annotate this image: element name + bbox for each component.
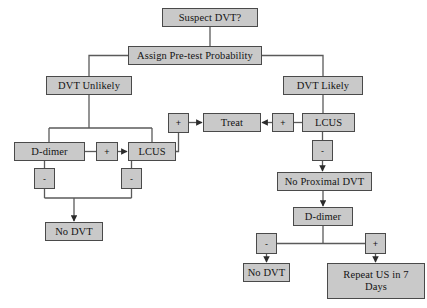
sign-plus-lcus-left-to-treat[interactable]: +	[168, 113, 189, 133]
node-dvt-unlikely[interactable]: DVT Unlikely	[46, 76, 132, 95]
node-lcus-right[interactable]: LCUS	[302, 113, 355, 132]
sign-plus-lcus-right-to-treat[interactable]: +	[272, 113, 294, 132]
sign-minus-d-dimer-right[interactable]: -	[256, 233, 277, 254]
edge-assign-bus-right	[262, 56, 323, 77]
node-d-dimer-right[interactable]: D-dimer	[293, 207, 353, 226]
sign-plus-ddimer-to-lcus-left[interactable]: +	[96, 142, 118, 161]
node-no-dvt-left[interactable]: No DVT	[45, 222, 103, 241]
sign-minus-d-dimer-left[interactable]: -	[34, 168, 55, 189]
sign-plus-d-dimer-right[interactable]: +	[365, 233, 386, 254]
dvt-flowchart: Suspect DVT? Assign Pre-test Probability…	[0, 0, 427, 308]
edge-lcus-left-to-plus	[176, 133, 179, 152]
node-treat[interactable]: Treat	[203, 113, 261, 132]
node-no-proximal-dvt[interactable]: No Proximal DVT	[277, 172, 372, 191]
node-repeat-us-in-7-days[interactable]: Repeat US in 7 Days	[327, 263, 425, 299]
sign-minus-lcus-right[interactable]: -	[312, 140, 333, 161]
sign-minus-lcus-left[interactable]: -	[121, 168, 142, 189]
node-d-dimer-left[interactable]: D-dimer	[14, 142, 85, 161]
node-dvt-likely[interactable]: DVT Likely	[283, 76, 363, 95]
node-assign-pretest-probability[interactable]: Assign Pre-test Probability	[128, 46, 262, 65]
node-lcus-left[interactable]: LCUS	[128, 142, 176, 161]
edge-assign-bus-left	[89, 56, 128, 77]
node-no-dvt-right[interactable]: No DVT	[243, 263, 290, 282]
node-suspect-dvt[interactable]: Suspect DVT?	[162, 8, 258, 27]
